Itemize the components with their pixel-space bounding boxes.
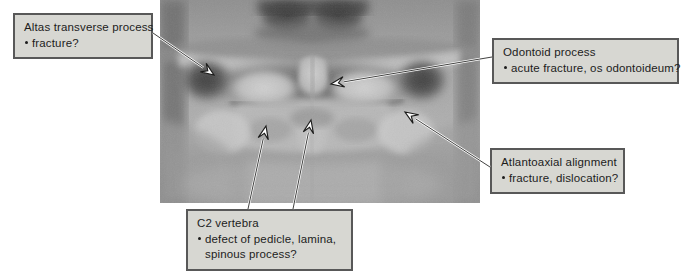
callout-odontoid-process[interactable]: Odontoid process acute fracture, os odon… (492, 38, 679, 84)
callout-atlantoaxial-alignment[interactable]: Atlantoaxial alignment fracture, disloca… (490, 148, 625, 194)
callout-item: fracture, dislocation? (501, 171, 615, 187)
callout-item: fracture? (24, 36, 143, 52)
bullet-icon (502, 176, 505, 179)
callout-item: acute fracture, os odontoideum? (503, 61, 669, 77)
bullet-icon (198, 237, 201, 240)
cervical-spine-radiograph (160, 0, 480, 203)
callout-c2-vertebra[interactable]: C2 vertebra defect of pedicle, lamina, s… (186, 209, 353, 271)
callout-title: Atlantoaxial alignment (501, 155, 615, 171)
bullet-icon (504, 66, 507, 69)
callout-item-continued: spinous process? (197, 247, 343, 263)
callout-atlas-transverse-process[interactable]: Altas transverse process fracture? (13, 13, 153, 59)
bullet-icon (25, 41, 28, 44)
callout-title: Altas transverse process (24, 20, 143, 36)
callout-title: Odontoid process (503, 45, 669, 61)
callout-title: C2 vertebra (197, 216, 343, 232)
radiograph-pixels (160, 0, 480, 203)
callout-item: defect of pedicle, lamina, (197, 232, 343, 248)
